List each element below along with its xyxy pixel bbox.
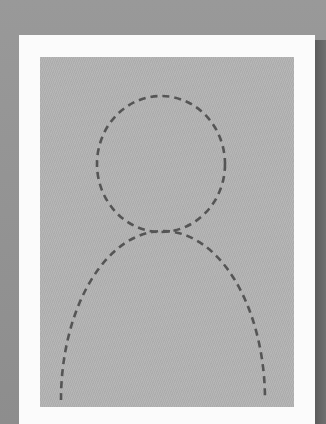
person-silhouette-icon — [0, 0, 326, 424]
head-outline — [97, 96, 225, 232]
shoulders-outline — [61, 231, 265, 400]
